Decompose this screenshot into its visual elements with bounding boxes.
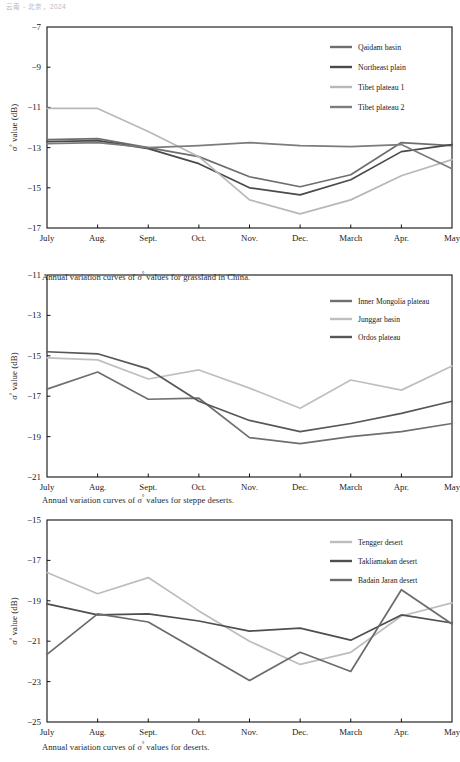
y-axis-tick-label: −15	[27, 515, 42, 525]
chart-legend: Tengger desertTakliamakan desertBadain J…	[330, 538, 418, 585]
figure-caption-steppe: Annual variation curves of σ° values for…	[42, 494, 234, 505]
y-axis-tick-label: −13	[27, 310, 42, 320]
x-axis-tick-label: March	[339, 233, 363, 243]
y-axis-tick-label: −11	[27, 102, 41, 112]
y-axis-tick-label: −21	[27, 472, 41, 482]
series-line	[47, 604, 452, 640]
series-line	[47, 108, 452, 214]
legend-label: Junggar basin	[358, 315, 400, 324]
x-axis-tick-label: Aug.	[89, 233, 106, 243]
chart-legend: Qaidam basinNortheast plainTibet plateau…	[330, 43, 406, 112]
legend-label: Inner Mongolia plateau	[358, 297, 429, 306]
svg-text:σ° value (dB): σ° value (dB)	[9, 104, 19, 151]
series-line	[47, 372, 452, 444]
y-axis-tick-label: −9	[31, 62, 41, 72]
x-axis-tick-label: Apr.	[394, 727, 409, 737]
y-axis-tick-label: −17	[27, 391, 42, 401]
x-axis-tick-label: Dec.	[292, 727, 308, 737]
figure-grassland: −7−9−11−13−15−17JulyAug.Sept.Oct.Nov.Dec…	[0, 22, 460, 270]
series-line	[47, 358, 452, 409]
caption-suffix: values for steppe deserts.	[144, 495, 234, 505]
svg-text:σ° value (dB): σ° value (dB)	[9, 352, 19, 399]
plot-area-steppe: −11−13−15−17−19−21JulyAug.Sept.Oct.Nov.D…	[0, 270, 460, 515]
chart-legend: Inner Mongolia plateauJunggar basinOrdos…	[330, 297, 429, 342]
chart-steppe: −11−13−15−17−19−21JulyAug.Sept.Oct.Nov.D…	[0, 270, 460, 515]
y-axis-title: σ° value (dB)	[9, 597, 19, 644]
y-axis-tick-label: −11	[27, 270, 41, 280]
x-axis-tick-label: July	[40, 727, 55, 737]
x-axis-tick-label: May	[444, 233, 460, 243]
legend-label: Tibet plateau 1	[358, 83, 405, 92]
figure-page: 云南 - 北京，2024 −7−9−11−13−15−17JulyAug.Sep…	[0, 0, 460, 762]
y-axis-title: σ° value (dB)	[9, 352, 19, 399]
x-axis-tick-label: March	[339, 727, 363, 737]
y-axis-tick-label: −15	[27, 351, 42, 361]
legend-label: Qaidam basin	[358, 43, 401, 52]
y-axis-tick-label: −19	[27, 432, 42, 442]
y-axis-tick-label: −21	[27, 636, 41, 646]
x-axis-tick-label: March	[339, 482, 363, 492]
x-axis-tick-label: May	[444, 727, 460, 737]
x-axis-tick-label: July	[40, 233, 55, 243]
series-line	[47, 590, 452, 681]
x-axis-tick-label: Apr.	[394, 233, 409, 243]
figure-steppe: −11−13−15−17−19−21JulyAug.Sept.Oct.Nov.D…	[0, 270, 460, 515]
x-axis-tick-label: Sept.	[139, 482, 157, 492]
legend-label: Takliamakan desert	[358, 557, 418, 566]
legend-label: Badain Jaran desert	[358, 576, 418, 585]
x-axis-tick-label: Dec.	[292, 233, 308, 243]
y-axis-tick-label: −17	[27, 555, 42, 565]
y-axis-tick-label: −25	[27, 717, 42, 727]
legend-label: Ordos plateau	[358, 333, 401, 342]
y-axis-tick-label: −19	[27, 596, 42, 606]
x-axis-tick-label: Aug.	[89, 482, 106, 492]
plot-area-deserts: −15−17−19−21−23−25JulyAug.Sept.Oct.Nov.D…	[0, 515, 460, 762]
series-line	[47, 143, 452, 169]
plot-frame	[47, 27, 452, 228]
y-axis-title: σ° value (dB)	[9, 104, 19, 151]
chart-deserts: −15−17−19−21−23−25JulyAug.Sept.Oct.Nov.D…	[0, 515, 460, 762]
x-axis-tick-label: Sept.	[139, 727, 157, 737]
y-axis-tick-label: −7	[31, 22, 41, 32]
caption-suffix: values for deserts.	[144, 742, 209, 752]
y-axis-tick-label: −17	[27, 223, 42, 233]
svg-text:σ° value (dB): σ° value (dB)	[9, 597, 19, 644]
figure-deserts: −15−17−19−21−23−25JulyAug.Sept.Oct.Nov.D…	[0, 515, 460, 762]
x-axis-tick-label: May	[444, 482, 460, 492]
chart-grassland: −7−9−11−13−15−17JulyAug.Sept.Oct.Nov.Dec…	[0, 22, 460, 270]
legend-label: Northeast plain	[358, 63, 406, 72]
legend-label: Tibet plateau 2	[358, 103, 405, 112]
y-axis-tick-label: −15	[27, 183, 42, 193]
x-axis-tick-label: Aug.	[89, 727, 106, 737]
x-axis-tick-label: Nov.	[241, 233, 258, 243]
caption-prefix: Annual variation curves of	[42, 742, 137, 752]
series-line	[47, 573, 452, 665]
x-axis-tick-label: Nov.	[241, 727, 258, 737]
x-axis-tick-label: Nov.	[241, 482, 258, 492]
x-axis-tick-label: Sept.	[139, 233, 157, 243]
x-axis-tick-label: July	[40, 482, 55, 492]
x-axis-tick-label: Apr.	[394, 482, 409, 492]
plot-area-grassland: −7−9−11−13−15−17JulyAug.Sept.Oct.Nov.Dec…	[0, 22, 460, 270]
x-axis-tick-label: Dec.	[292, 482, 308, 492]
x-axis-tick-label: Oct.	[191, 482, 206, 492]
figure-caption-deserts: Annual variation curves of σ° values for…	[42, 741, 210, 752]
x-axis-tick-label: Oct.	[191, 727, 206, 737]
y-axis-tick-label: −13	[27, 143, 42, 153]
legend-label: Tengger desert	[358, 538, 404, 547]
plot-frame	[47, 520, 452, 722]
caption-prefix: Annual variation curves of	[42, 495, 137, 505]
running-head: 云南 - 北京，2024	[6, 1, 66, 11]
x-axis-tick-label: Oct.	[191, 233, 206, 243]
y-axis-tick-label: −23	[27, 677, 42, 687]
